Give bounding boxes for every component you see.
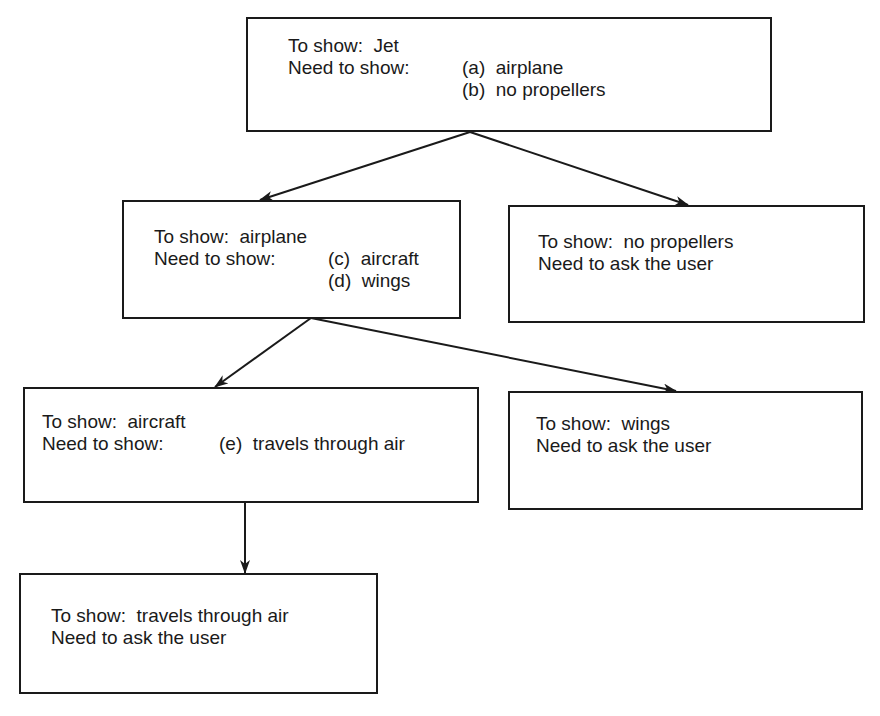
to-show-label: To show: wings: [536, 413, 670, 435]
subgoal-item: (d) wings: [328, 270, 410, 292]
edge-airplane-wings: [311, 318, 676, 391]
node-travels-through-air: To show: travels through air Need to ask…: [19, 573, 378, 694]
to-show-label: To show: Jet: [288, 35, 399, 57]
to-show-label: To show: airplane: [154, 226, 307, 248]
subgoal-item: (b) no propellers: [462, 79, 606, 101]
subgoal-item: (e) travels through air: [219, 433, 405, 455]
node-jet: To show: Jet Need to show: (a) airplane …: [246, 17, 772, 132]
node-aircraft: To show: aircraft Need to show: (e) trav…: [23, 387, 479, 503]
to-show-label: To show: travels through air: [51, 605, 289, 627]
subgoal-item: (c) aircraft: [328, 248, 419, 270]
node-wings: To show: wings Need to ask the user: [508, 391, 863, 510]
to-show-label: To show: aircraft: [42, 411, 186, 433]
edge-jet-airplane: [260, 132, 470, 200]
node-airplane: To show: airplane Need to show: (c) airc…: [122, 200, 461, 319]
need-to-show-label: Need to show:: [154, 248, 275, 270]
ask-user-label: Need to ask the user: [536, 435, 711, 457]
edge-airplane-aircraft: [215, 318, 311, 387]
need-to-show-label: Need to show:: [42, 433, 163, 455]
need-to-show-label: Need to show:: [288, 57, 409, 79]
node-no-propellers: To show: no propellers Need to ask the u…: [508, 205, 865, 323]
ask-user-label: Need to ask the user: [538, 253, 713, 275]
subgoal-item: (a) airplane: [462, 57, 563, 79]
edge-jet-no-propellers: [470, 132, 688, 205]
to-show-label: To show: no propellers: [538, 231, 733, 253]
ask-user-label: Need to ask the user: [51, 627, 226, 649]
